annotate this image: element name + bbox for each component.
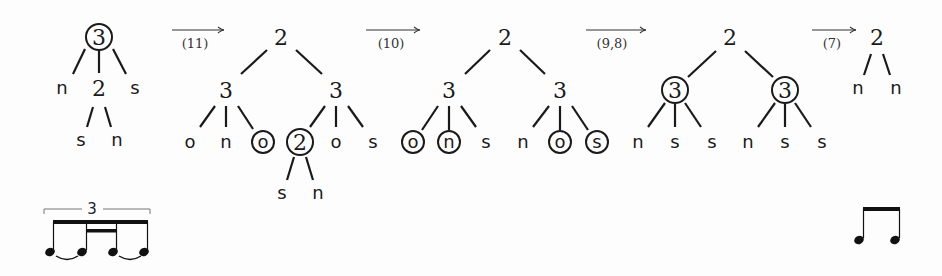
node-label: 3 (778, 78, 792, 103)
tree-node: 2 (274, 25, 288, 50)
tree-edge (296, 50, 322, 74)
node-label: 3 (329, 78, 343, 103)
tree-edge (758, 103, 775, 127)
node-label: o (184, 131, 195, 152)
node-label: o (330, 131, 341, 152)
node-label: 3 (553, 78, 567, 103)
node-label: s (817, 131, 826, 152)
circled-tree-node: o (402, 131, 424, 153)
tree-edge (241, 50, 267, 74)
tree-5: 2nn (852, 25, 901, 98)
tree-node: 3 (442, 78, 456, 103)
tree-edge (648, 103, 665, 127)
circled-tree-node: 3 (662, 77, 688, 103)
tree-edge (287, 157, 294, 180)
node-label: 3 (668, 78, 682, 103)
node-label: 2 (498, 25, 512, 50)
tree-node: o (184, 131, 195, 152)
node-label: s (707, 131, 716, 152)
node-label: s (670, 131, 679, 152)
node-label: 2 (723, 25, 737, 50)
primary-beam (53, 220, 148, 224)
circled-tree-node: s (586, 131, 608, 153)
tree-node: o (330, 131, 341, 152)
tree-node: s (277, 182, 286, 203)
note-stems (864, 209, 900, 238)
node-label: n (517, 131, 528, 152)
tree-edge (310, 106, 325, 127)
note-heads (44, 246, 150, 257)
music-notation-left: 3 (44, 200, 150, 260)
node-label: s (592, 131, 601, 152)
node-label: n (742, 131, 753, 152)
tree-node: 2 (498, 25, 512, 50)
tree-edge (238, 106, 253, 129)
note-head-icon (44, 246, 56, 257)
tree-edge (685, 103, 701, 127)
tree-edge (113, 49, 126, 74)
node-label: n (890, 77, 901, 98)
circled-tree-node: 3 (772, 77, 798, 103)
note-stems (54, 222, 148, 250)
tree-edge (200, 106, 215, 127)
tree-node: n (517, 131, 528, 152)
node-label: s (277, 182, 286, 203)
node-label: 3 (219, 78, 233, 103)
rule-label: (9,8) (597, 36, 628, 51)
node-label: 2 (293, 130, 307, 155)
tree-node: s (368, 131, 377, 152)
tree-node: s (817, 131, 826, 152)
tree-edge (306, 157, 313, 180)
tree-node: 3 (553, 78, 567, 103)
tree-edge (422, 106, 438, 130)
tree-edge (864, 54, 871, 75)
rule-label: (10) (378, 36, 405, 51)
tree-node: s (780, 131, 789, 152)
tree-node: s (481, 131, 490, 152)
node-label: 3 (442, 78, 456, 103)
node-label: s (130, 77, 139, 98)
node-label: s (76, 129, 85, 150)
rule-label: (7) (823, 36, 841, 51)
tree-node: n (742, 131, 753, 152)
tree-node: s (707, 131, 716, 152)
circled-tree-node: 2 (287, 129, 313, 155)
tree-node: n (56, 77, 67, 98)
circled-tree-node: o (252, 131, 274, 153)
tree-node: 2 (92, 76, 106, 101)
tree-edge (465, 50, 490, 74)
tree-edge (348, 106, 363, 127)
tree-edge (795, 103, 811, 127)
rewrite-arrow: (10) (366, 27, 420, 51)
tree-node: 3 (329, 78, 343, 103)
tree-node: s (130, 77, 139, 98)
rule-label: (11) (182, 36, 209, 51)
rewrite-arrow: (7) (812, 27, 856, 51)
beam (863, 207, 900, 211)
node-label: o (407, 131, 418, 152)
node-label: 2 (92, 76, 106, 101)
tree-2: 233ono2ossn (184, 25, 377, 203)
tree-node: 3 (219, 78, 233, 103)
node-label: 2 (274, 25, 288, 50)
tree-edge (883, 54, 890, 75)
node-label: 2 (870, 25, 884, 50)
tree-3: 233onsnos (402, 25, 608, 153)
tree-edge (87, 107, 93, 127)
node-label: s (368, 131, 377, 152)
tree-node: 2 (723, 25, 737, 50)
circled-tree-node: o (549, 131, 571, 153)
rewrite-arrow: (9,8) (586, 27, 646, 51)
tree-node: n (632, 131, 643, 152)
tree-edge (520, 50, 545, 74)
tuplet-bracket (44, 209, 150, 214)
ties (56, 256, 141, 260)
tree-edge (572, 106, 588, 130)
tree-edge (688, 51, 716, 77)
secondary-beam (86, 229, 117, 233)
node-label: o (257, 131, 268, 152)
circled-tree-node: n (438, 131, 460, 153)
tree-edge (105, 107, 111, 127)
tree-node: n (852, 77, 863, 98)
music-notation-right (853, 207, 901, 246)
